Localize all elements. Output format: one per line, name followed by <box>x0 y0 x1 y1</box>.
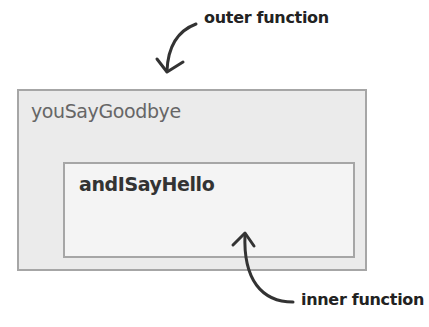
inner-arrow-icon <box>233 233 293 302</box>
annotation-arrows <box>0 0 429 327</box>
outer-arrow-icon <box>157 24 196 72</box>
